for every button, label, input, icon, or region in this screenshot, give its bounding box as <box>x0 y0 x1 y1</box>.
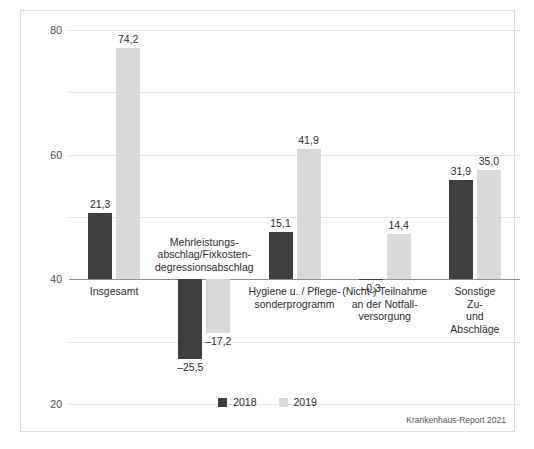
bar-2019-4[interactable] <box>477 170 501 279</box>
bar-value-label-2019-1: –17,2 <box>205 335 231 347</box>
y-axis-tick-80: 80 <box>50 24 62 36</box>
bar-value-label-2018-1: –25,5 <box>177 361 203 373</box>
bar-2018-2[interactable] <box>269 232 293 279</box>
plot-area: 806040200–20–4021,374,2Insgesamt–25,5–17… <box>69 30 520 404</box>
legend-item-2018[interactable]: 2018 <box>218 396 256 408</box>
gridline--20: –20 <box>69 342 520 343</box>
x-axis-category-label-0: Insgesamt <box>90 285 138 298</box>
bar-2018-3[interactable] <box>359 279 383 280</box>
bar-value-label-2019-4: 35,0 <box>479 155 499 167</box>
bar-value-label-2018-0: 21,3 <box>90 198 110 210</box>
chart-figure: 806040200–20–4021,374,2Insgesamt–25,5–17… <box>0 0 534 449</box>
bar-2018-0[interactable] <box>88 213 112 279</box>
bar-2019-0[interactable] <box>116 48 140 279</box>
y-axis-tick-60: 60 <box>50 149 62 161</box>
bar-2018-1[interactable] <box>178 279 202 358</box>
y-axis-tick-40: 40 <box>50 273 62 285</box>
legend-item-2019[interactable]: 2019 <box>279 396 317 408</box>
x-axis-category-label-2: Hygiene u. / Pflege- sonderprogramm <box>248 285 340 310</box>
legend-label-2018: 2018 <box>233 396 256 408</box>
gridline-0: 0 <box>69 279 520 280</box>
bar-2019-1[interactable] <box>206 279 230 333</box>
bar-value-label-2019-0: 74,2 <box>118 33 138 45</box>
legend-swatch-2019 <box>279 398 288 407</box>
x-axis-category-label-3: (Nicht-) Teilnahme an der Notfall- verso… <box>342 285 427 323</box>
bar-2019-2[interactable] <box>297 149 321 280</box>
bar-value-label-2018-2: 15,1 <box>270 217 290 229</box>
x-axis-category-label-4: Sonstige Zu- und Abschläge <box>450 285 499 335</box>
bar-value-label-2019-3: 14,4 <box>388 219 408 231</box>
legend-label-2019: 2019 <box>294 396 317 408</box>
bar-value-label-2018-4: 31,9 <box>451 165 471 177</box>
chart-legend: 2018 2019 <box>21 396 514 408</box>
legend-swatch-2018 <box>218 398 227 407</box>
bar-value-label-2019-2: 41,9 <box>298 134 318 146</box>
chart-panel: 806040200–20–4021,374,2Insgesamt–25,5–17… <box>20 10 515 432</box>
bar-2019-3[interactable] <box>387 234 411 279</box>
bar-2018-4[interactable] <box>449 180 473 279</box>
x-axis-category-label-1: Mehrleistungs- abschlag/Fixkosten- degre… <box>155 236 254 274</box>
source-note: Krankenhaus-Report 2021 <box>406 415 506 425</box>
gridline-80: 80 <box>69 30 520 31</box>
